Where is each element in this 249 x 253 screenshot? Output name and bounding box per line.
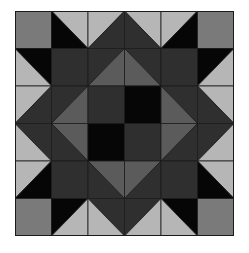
cell-r0-c5-square	[198, 11, 235, 49]
quilt-block	[15, 11, 234, 236]
cell-r2-c3-square	[125, 86, 162, 124]
cell-r2-c2-square	[88, 86, 125, 124]
cell-r3-c3-square	[125, 124, 162, 162]
cell-r1-c1-square	[52, 49, 89, 87]
cell-r4-c4-square	[161, 161, 198, 199]
cell-r0-c0-square	[15, 11, 52, 49]
quilt-pattern-graphic	[15, 11, 234, 236]
cell-r1-c4-square	[161, 49, 198, 87]
cell-r4-c1-square	[52, 161, 89, 199]
cell-r3-c2-square	[88, 124, 125, 162]
cell-r5-c5-square	[198, 199, 235, 237]
cell-r5-c0-square	[15, 199, 52, 237]
